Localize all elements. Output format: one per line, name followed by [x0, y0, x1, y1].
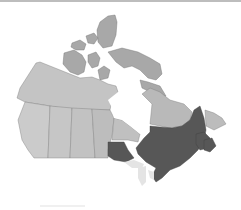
- northwestern-ontario-highlight: [108, 142, 134, 162]
- british-columbia: [18, 102, 50, 158]
- maritimes-highlight: [204, 138, 216, 152]
- labrador-coast: [205, 110, 226, 130]
- saskatchewan: [70, 108, 95, 158]
- bottom-artifact: [40, 205, 85, 207]
- canada-map: [0, 0, 241, 210]
- alberta: [48, 106, 72, 158]
